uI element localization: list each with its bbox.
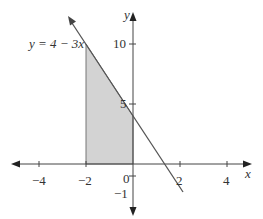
chart-figure: y = 4 − 3x x y −4 −2 0 2 4 10 5 −1: [0, 0, 263, 219]
origin-label: 0: [123, 171, 130, 186]
x-tick-label-minus-2: −2: [78, 173, 92, 188]
y-axis-label: y: [122, 7, 130, 22]
x-tick-label-4: 4: [223, 173, 230, 188]
y-axis-down-arrow-icon: [130, 207, 137, 216]
line-arrow-icon: [68, 16, 76, 26]
y-tick-label-10: 10: [113, 36, 126, 51]
x-tick-label-2: 2: [176, 173, 183, 188]
x-axis-left-arrow-icon: [11, 161, 20, 168]
x-tick-label-minus-4: −4: [32, 173, 46, 188]
y-tick-label-5: 5: [120, 96, 127, 111]
x-axis-label: x: [244, 166, 251, 181]
y-axis-up-arrow-icon: [130, 12, 137, 21]
equation-label: y = 4 − 3x: [27, 36, 84, 51]
chart-svg: y = 4 − 3x x y −4 −2 0 2 4 10 5 −1: [0, 0, 263, 219]
y-tick-label-minus-1: −1: [114, 186, 128, 201]
